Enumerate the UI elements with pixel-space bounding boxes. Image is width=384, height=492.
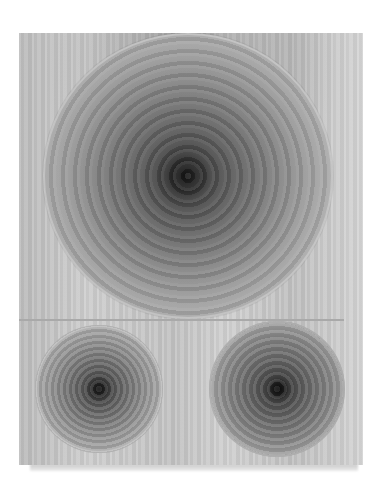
canvas-shadow [30,464,358,471]
small-concentric-circle-left [35,325,163,453]
small-concentric-circle-right [209,321,345,457]
painting-canvas: Painting of concentric circles [19,33,363,465]
top-panel [19,33,363,319]
bottom-panel [19,321,363,465]
large-concentric-circle [43,33,333,319]
